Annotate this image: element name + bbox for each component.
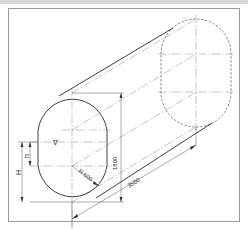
H-arrow-top <box>21 142 24 147</box>
axis-centerline-bottomedge <box>72 127 196 202</box>
length-dimension-label: 3500 <box>126 176 141 188</box>
H-arrow-bottom <box>21 197 24 202</box>
H-label: H <box>15 170 22 175</box>
height-arrow-top <box>120 93 123 98</box>
h-arrow-bottom <box>29 161 32 166</box>
liquid-level-symbol: ∇ <box>52 139 58 146</box>
axis-centerline-topedge <box>72 19 196 93</box>
tank-drawing: 1800 3500 R 600 H h ∇ <box>0 0 248 240</box>
axis-centerline-bottom <box>72 92 196 166</box>
height-dimension-label: 1800 <box>112 156 118 170</box>
h-label: h <box>23 154 30 158</box>
length-arrow-back <box>190 145 196 150</box>
radius-arrow <box>93 181 99 186</box>
h-arrow-top <box>29 142 32 147</box>
length-arrow-front <box>72 214 78 219</box>
top-tangent-line <box>59 28 173 96</box>
height-arrow-bottom <box>120 197 123 202</box>
front-capsule <box>38 99 107 197</box>
